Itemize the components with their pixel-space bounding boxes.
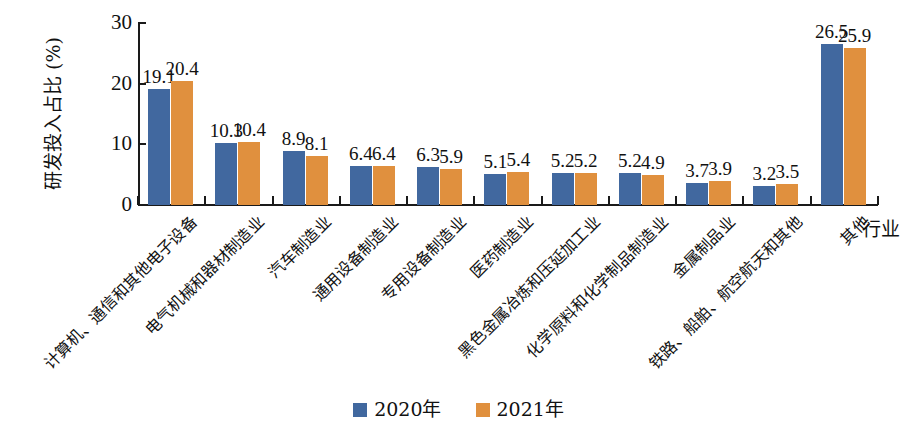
bar-group: 5.25.2 — [542, 23, 609, 205]
x-axis-category-label-text: 金属制品业 — [669, 213, 738, 282]
y-axis-tick-label: 20 — [92, 73, 132, 94]
legend-swatch — [476, 403, 490, 417]
bar — [753, 186, 775, 205]
bar — [507, 172, 529, 205]
bar-value-label: 25.9 — [831, 26, 879, 45]
bar-group: 3.73.9 — [676, 23, 743, 205]
x-axis-category-label-text: 医药制造业 — [467, 213, 536, 282]
bar — [440, 169, 462, 205]
bar-value-label: 6.4 — [360, 144, 408, 163]
y-axis-tick-label-wrap: 10 — [88, 133, 132, 154]
bar-value-label: 3.5 — [763, 162, 811, 181]
y-axis-tick-label: 30 — [92, 12, 132, 33]
x-axis-category-label-text: 电气机械和器材制造业 — [142, 213, 268, 339]
bar-group: 6.46.4 — [340, 23, 407, 205]
bar — [417, 167, 439, 205]
bar — [373, 166, 395, 205]
bar-value-label: 5.4 — [494, 150, 542, 169]
bar — [484, 174, 506, 205]
y-axis-title: 研发投入占比 (%) — [38, 19, 65, 209]
y-axis-tick-label: 10 — [92, 133, 132, 154]
bar-value-label: 5.9 — [427, 147, 475, 166]
y-axis-tick-label: 0 — [92, 194, 132, 215]
legend-label: 2020年 — [374, 400, 441, 419]
x-axis-category-label-text: 化学原料和化学制品制造业 — [523, 213, 671, 361]
bar — [709, 181, 731, 205]
bar-group: 8.98.1 — [273, 23, 340, 205]
bar-group: 10.310.4 — [205, 23, 272, 205]
y-axis-tick-label-wrap: 30 — [88, 12, 132, 33]
bar — [171, 81, 193, 205]
bar-chart: 研发投入占比 (%) 0102030 行业 19.120.410.310.48.… — [0, 0, 917, 424]
bar — [844, 48, 866, 205]
bar — [215, 143, 237, 205]
bar — [776, 184, 798, 205]
bar-value-label: 20.4 — [158, 59, 206, 78]
chart-legend: 2020年2021年 — [0, 400, 917, 419]
bar — [619, 173, 641, 205]
legend-item[interactable]: 2020年 — [353, 400, 441, 419]
bar-group: 6.35.9 — [407, 23, 474, 205]
legend-swatch — [353, 403, 367, 417]
bar-group: 26.525.9 — [811, 23, 878, 205]
bar — [821, 44, 843, 205]
bar — [642, 175, 664, 205]
bar-value-label: 3.9 — [696, 159, 744, 178]
legend-item[interactable]: 2021年 — [476, 400, 564, 419]
bar — [575, 173, 597, 205]
bar — [686, 183, 708, 205]
bar-group: 5.24.9 — [609, 23, 676, 205]
x-axis-category-label-text: 汽车制造业 — [266, 213, 335, 282]
bar-value-label: 4.9 — [629, 153, 677, 172]
bar-value-label: 8.1 — [293, 134, 341, 153]
bar-value-label: 5.2 — [562, 151, 610, 170]
bar-value-label: 10.4 — [225, 120, 273, 139]
legend-label: 2021年 — [497, 400, 564, 419]
y-axis-tick-label-wrap: 0 — [88, 194, 132, 215]
bar — [283, 151, 305, 205]
y-axis-tick-label-wrap: 20 — [88, 73, 132, 94]
bar — [238, 142, 260, 205]
bar — [148, 89, 170, 205]
bar-group: 3.23.5 — [743, 23, 810, 205]
bar — [306, 156, 328, 205]
bar-group: 19.120.4 — [138, 23, 205, 205]
bar-group: 5.15.4 — [474, 23, 541, 205]
bar — [350, 166, 372, 205]
bar — [552, 173, 574, 205]
